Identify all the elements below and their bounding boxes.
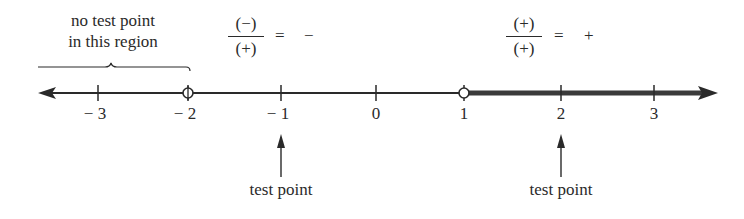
right-sign-fraction: (+) (+) — [506, 14, 542, 59]
tick-label: 0 — [372, 104, 381, 124]
no-test-region-line1: no test point — [71, 11, 155, 31]
arrow-up-icon — [277, 134, 285, 148]
tick-label: − 2 — [174, 104, 196, 124]
fraction-bar — [506, 36, 542, 37]
left-sign-fraction: (−) (+) — [228, 14, 264, 59]
tick-label: − 3 — [84, 104, 106, 124]
tick-label: 3 — [650, 104, 659, 124]
right-result: + — [584, 26, 594, 46]
tick-label: − 1 — [267, 104, 289, 124]
arrow-up-icon — [557, 134, 565, 148]
left-equals: = — [275, 26, 285, 46]
right-fraction-denominator: (+) — [506, 39, 542, 59]
fraction-bar — [228, 36, 264, 37]
tick-label: 1 — [460, 104, 469, 124]
right-fraction-numerator: (+) — [506, 14, 542, 34]
test-point-label-left: test point — [250, 180, 313, 200]
region-brace — [38, 63, 190, 71]
no-test-region-line2: in this region — [68, 32, 158, 52]
left-fraction-numerator: (−) — [228, 14, 264, 34]
test-point-label-right: test point — [530, 180, 593, 200]
left-fraction-denominator: (+) — [228, 39, 264, 59]
tick-label: 2 — [557, 104, 566, 124]
right-equals: = — [554, 26, 564, 46]
left-result: − — [304, 26, 314, 46]
open-point-1 — [459, 88, 469, 98]
